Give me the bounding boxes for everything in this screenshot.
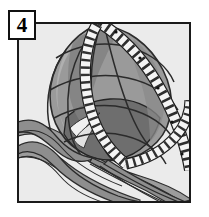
illustration-panel: 4: [0, 0, 209, 217]
step-number-label: 4: [17, 15, 28, 36]
step-number-badge: 4: [8, 10, 36, 40]
